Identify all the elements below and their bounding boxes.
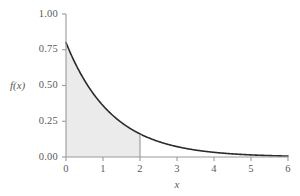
x-tick-label: 1 xyxy=(91,163,115,174)
x-axis-tick-marks xyxy=(66,157,288,161)
y-tick-label: 0.75 xyxy=(16,43,58,54)
x-tick-label: 6 xyxy=(276,163,300,174)
shaded-area-region xyxy=(66,43,140,157)
x-tick-label: 3 xyxy=(165,163,189,174)
exponential-density-chart: 0123456 0.000.250.500.751.00 x f(x) xyxy=(0,0,300,196)
x-tick-label: 5 xyxy=(239,163,263,174)
x-tick-label: 2 xyxy=(128,163,152,174)
y-axis-tick-marks xyxy=(62,14,66,157)
y-tick-label: 0.25 xyxy=(16,115,58,126)
x-tick-label: 0 xyxy=(54,163,78,174)
y-tick-label: 0.00 xyxy=(16,151,58,162)
y-tick-label: 1.00 xyxy=(16,8,58,19)
x-axis-title: x xyxy=(157,178,197,190)
y-axis-title: f(x) xyxy=(10,79,25,91)
x-tick-label: 4 xyxy=(202,163,226,174)
